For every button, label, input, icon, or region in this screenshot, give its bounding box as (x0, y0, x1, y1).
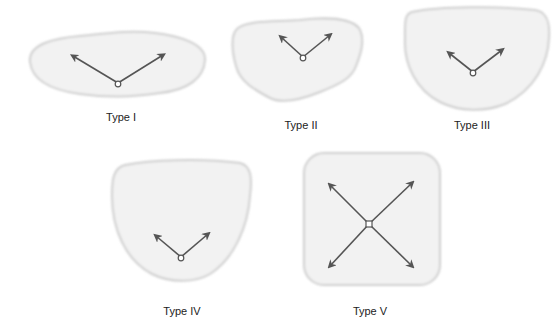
type-5-figure (304, 153, 440, 285)
type-1-pivot-icon (115, 81, 121, 87)
type-2-figure (233, 19, 363, 101)
type-5-shape (304, 153, 440, 285)
type-4-shape (112, 160, 251, 281)
type-4-pivot-icon (178, 255, 184, 261)
type-5-label: Type V (353, 305, 387, 317)
type-3-pivot-icon (470, 70, 476, 76)
type-2-shape (233, 19, 363, 101)
type-2-pivot-icon (300, 55, 306, 61)
type-2-label: Type II (284, 119, 317, 131)
type-4-label: Type IV (163, 305, 200, 317)
type-1-label: Type I (106, 111, 136, 123)
type-5-pivot-icon (366, 221, 372, 227)
type-3-figure (405, 7, 549, 110)
type-3-label: Type III (454, 119, 490, 131)
diagram-canvas (0, 0, 555, 326)
type-4-figure (112, 160, 251, 281)
type-3-shape (405, 7, 549, 110)
type-1-figure (30, 32, 205, 97)
